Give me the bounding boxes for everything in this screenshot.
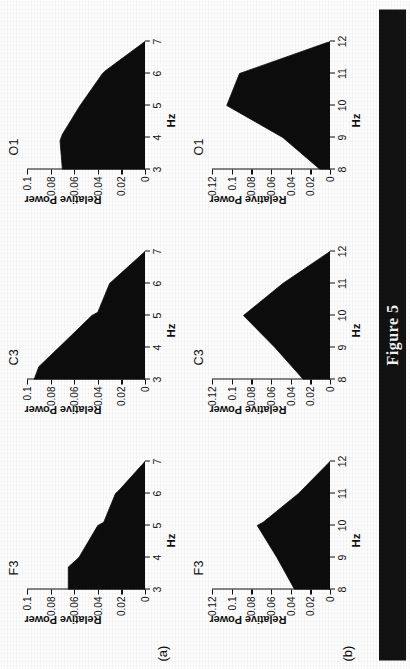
panel-label-b: (b) <box>340 645 355 661</box>
y-tick <box>291 379 292 384</box>
y-tick <box>121 589 122 594</box>
x-axis-label-a-f3: Hz <box>165 447 177 633</box>
x-tick <box>330 282 335 283</box>
x-axis-label-b-c3: Hz <box>350 237 362 423</box>
panel-label-a: (a) <box>155 645 170 661</box>
plot-area-b-o1: 00.020.040.060.080.10.1289101112 <box>212 41 330 169</box>
y-tick <box>145 379 146 384</box>
panel-row-b: (b) F3 Relative Power 00.020.040.060.080… <box>190 0 376 669</box>
x-axis-label-a-o1: Hz <box>165 27 177 213</box>
x-tick <box>330 460 335 461</box>
y-tick <box>27 379 28 384</box>
chart-title-a-c3: C3 <box>7 348 21 365</box>
y-tick-label: 0.02 <box>116 176 127 195</box>
y-tick-label: 0.06 <box>69 386 80 405</box>
spectrum-area <box>27 251 145 379</box>
y-tick-label: 0.1 <box>22 596 33 610</box>
plot-area-b-f3: 00.020.040.060.080.10.1289101112 <box>212 461 330 589</box>
spectrum-area <box>212 461 330 589</box>
y-tick <box>145 589 146 594</box>
plot-area-a-c3: 00.020.040.060.080.134567 <box>27 251 145 379</box>
y-tick <box>74 589 75 594</box>
chart-title-b-f3: F3 <box>192 560 206 575</box>
x-tick-label: 9 <box>336 344 348 350</box>
x-tick <box>330 72 335 73</box>
x-tick <box>145 72 150 73</box>
y-tick <box>232 589 233 594</box>
x-tick-label: 8 <box>336 166 348 172</box>
y-axis-label-a-f3: Relative Power <box>3 613 123 625</box>
y-tick-label: 0.08 <box>246 176 257 195</box>
x-tick <box>330 40 335 41</box>
x-tick <box>330 168 335 169</box>
x-tick-label: 11 <box>336 488 348 499</box>
x-tick <box>145 104 150 105</box>
x-tick-label: 4 <box>151 554 163 560</box>
x-tick-label: 10 <box>336 99 348 111</box>
plot-area-a-f3: 00.020.040.060.080.134567 <box>27 461 145 589</box>
x-tick <box>330 378 335 379</box>
x-tick <box>145 460 150 461</box>
y-tick <box>51 379 52 384</box>
y-tick-label: 0.04 <box>92 386 103 405</box>
y-tick-label: 0.08 <box>246 386 257 405</box>
y-tick-label: 0.02 <box>116 386 127 405</box>
panel-row-a: (a) F3 Relative Power 00.020.040.060.080… <box>5 0 191 669</box>
y-tick <box>27 169 28 174</box>
x-tick-label: 9 <box>336 554 348 560</box>
y-tick <box>310 379 311 384</box>
y-tick-label: 0.06 <box>69 176 80 195</box>
y-tick <box>310 589 311 594</box>
x-tick-label: 3 <box>151 166 163 172</box>
y-tick <box>251 589 252 594</box>
x-tick <box>145 378 150 379</box>
x-tick-label: 5 <box>151 102 163 108</box>
x-tick <box>145 168 150 169</box>
spectrum-area <box>212 41 330 169</box>
y-tick <box>27 589 28 594</box>
x-tick-label: 8 <box>336 376 348 382</box>
y-tick <box>121 169 122 174</box>
y-tick-label: 0.12 <box>207 386 218 405</box>
x-tick-label: 4 <box>151 134 163 140</box>
y-tick <box>51 589 52 594</box>
x-tick-label: 7 <box>151 248 163 254</box>
y-tick <box>98 379 99 384</box>
x-tick <box>145 346 150 347</box>
y-tick <box>145 169 146 174</box>
y-tick-label: 0.08 <box>45 176 56 195</box>
figure-caption-band: Figure 5 <box>379 9 406 660</box>
spectrum-area <box>27 41 145 169</box>
x-tick-label: 6 <box>151 490 163 496</box>
spectrum-area <box>212 251 330 379</box>
y-tick <box>251 379 252 384</box>
y-tick-label: 0.04 <box>92 596 103 615</box>
y-tick <box>74 379 75 384</box>
chart-a-o1: O1 Relative Power 00.020.040.060.080.134… <box>5 27 175 213</box>
y-tick <box>212 169 213 174</box>
x-tick <box>330 492 335 493</box>
y-tick <box>212 379 213 384</box>
y-tick-label: 0.04 <box>92 176 103 195</box>
x-tick-label: 10 <box>336 309 348 321</box>
y-tick-label: 0.1 <box>226 176 237 190</box>
x-tick-label: 12 <box>336 35 348 47</box>
y-tick <box>330 589 331 594</box>
x-tick <box>145 314 150 315</box>
y-tick-label: 0.08 <box>45 386 56 405</box>
x-tick <box>145 588 150 589</box>
x-tick <box>330 556 335 557</box>
x-tick <box>145 492 150 493</box>
scanned-figure-page: (a) F3 Relative Power 00.020.040.060.080… <box>0 0 410 669</box>
y-tick <box>251 169 252 174</box>
x-tick-label: 8 <box>336 586 348 592</box>
y-tick <box>271 589 272 594</box>
y-axis-label-a-o1: Relative Power <box>3 193 123 205</box>
y-tick-label: 0.12 <box>207 596 218 615</box>
x-tick <box>145 250 150 251</box>
chart-title-b-c3: C3 <box>192 348 206 365</box>
x-tick <box>145 524 150 525</box>
chart-a-c3: C3 Relative Power 00.020.040.060.080.134… <box>5 237 175 423</box>
x-tick-label: 4 <box>151 344 163 350</box>
x-tick <box>330 104 335 105</box>
